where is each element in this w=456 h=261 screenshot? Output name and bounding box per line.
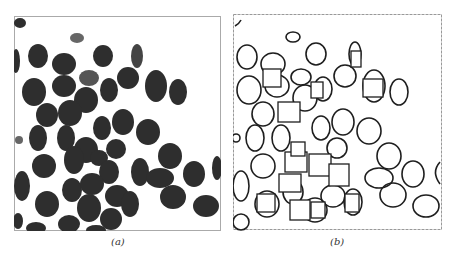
caption-b: (b) xyxy=(330,236,344,247)
caption-a: (a) xyxy=(111,236,125,247)
panel-a-cell-image xyxy=(14,16,221,231)
panel-b-contour-image xyxy=(233,14,443,231)
